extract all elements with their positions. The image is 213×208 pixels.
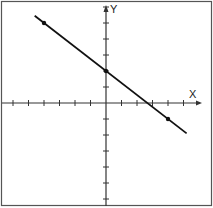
data-point [166,117,170,121]
data-point [42,21,46,25]
series-line [35,16,187,134]
data-line [35,16,187,134]
coordinate-plot: X Y [0,0,213,208]
y-axis-arrow-icon [104,5,109,12]
data-point [104,69,108,73]
y-axis-label: Y [110,3,118,15]
x-axis-arrow-icon [196,101,202,106]
x-axis-label: X [189,88,197,100]
axes [2,5,202,206]
